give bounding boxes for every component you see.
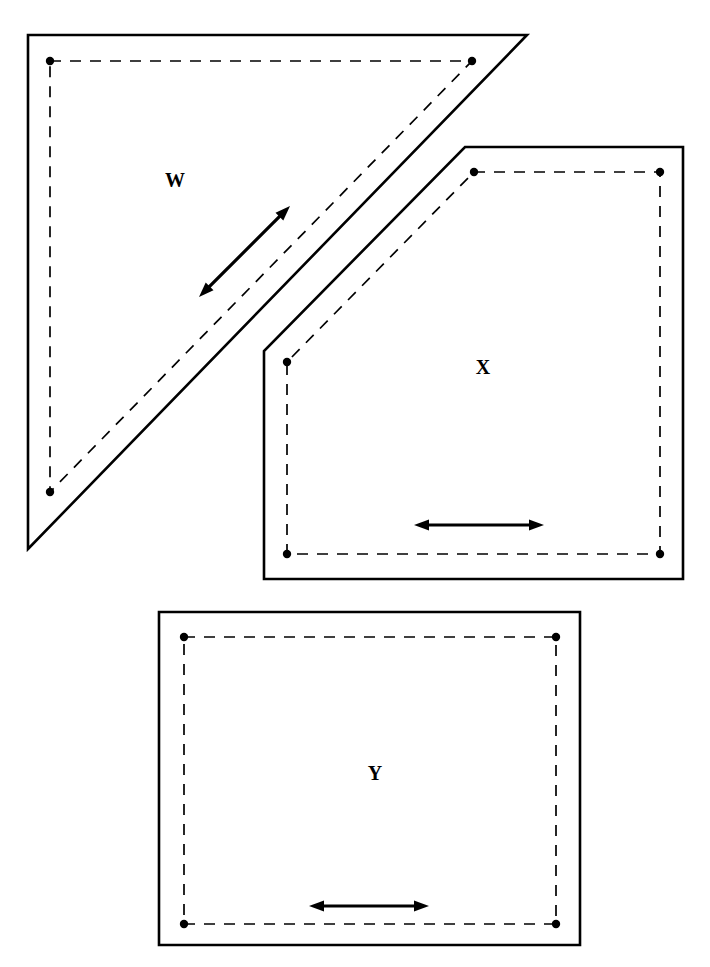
shape-x-vertex-dot	[470, 168, 478, 176]
shape-group-w: W	[28, 35, 527, 549]
arrow-head-icon	[414, 901, 429, 912]
shape-y-label: Y	[368, 762, 383, 784]
shape-w-label: W	[165, 169, 185, 191]
diagram-canvas: W X Y	[0, 0, 710, 967]
shape-w-inner-dashed-path	[50, 61, 472, 492]
shape-w-motion-arrow	[199, 206, 290, 297]
arrow-head-icon	[309, 901, 324, 912]
shape-x-inner-dashed-path	[287, 172, 660, 554]
shape-y-vertex-dot	[552, 633, 560, 641]
shape-y-vertex-dot	[552, 920, 560, 928]
shape-group-x: X	[264, 147, 683, 579]
shape-x-motion-arrow	[414, 520, 544, 531]
shape-w-vertex-dot	[46, 488, 54, 496]
shape-w-vertex-dot	[468, 57, 476, 65]
geometric-shapes-svg: W X Y	[0, 0, 710, 967]
shape-y-vertex-dot	[180, 920, 188, 928]
shape-w-vertex-dot	[46, 57, 54, 65]
arrow-shaft	[205, 212, 284, 291]
shape-group-y: Y	[159, 612, 580, 945]
arrow-head-icon	[529, 520, 544, 531]
shape-x-vertex-dot	[656, 168, 664, 176]
shape-x-outline	[264, 147, 683, 579]
shape-y-vertex-dot	[180, 633, 188, 641]
shape-x-vertex-dot	[283, 358, 291, 366]
shape-x-vertex-dot	[283, 550, 291, 558]
shape-w-outline	[28, 35, 527, 549]
shape-x-vertex-dot	[656, 550, 664, 558]
arrow-head-icon	[414, 520, 429, 531]
shape-y-motion-arrow	[309, 901, 429, 912]
shape-x-label: X	[476, 356, 491, 378]
